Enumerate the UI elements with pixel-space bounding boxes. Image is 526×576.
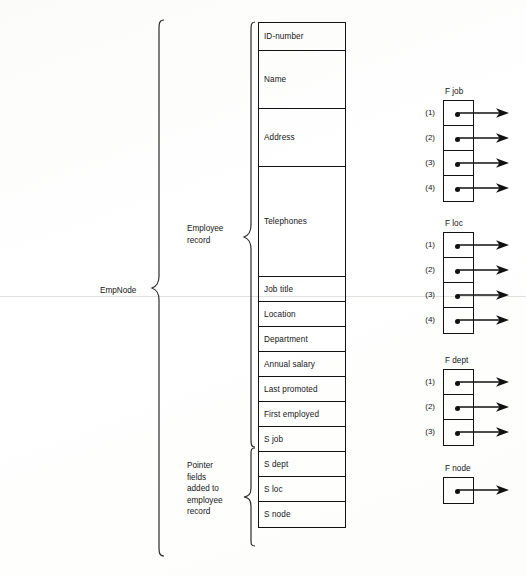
record-field-label: S job [264, 435, 283, 444]
pointer-table-row [444, 308, 473, 333]
pointer-table-row [444, 420, 473, 445]
pointer-fields-label: Pointer fields added to employee record [187, 460, 223, 518]
pointer-table-title: F job [445, 87, 463, 96]
pointer-dot-icon [455, 489, 460, 494]
pointer-table-row [444, 283, 473, 308]
pointer-row-index: (4) [415, 315, 435, 324]
record-field-label: ID-number [264, 32, 304, 41]
record-field-label: S dept [264, 460, 288, 469]
pointer-table-row [444, 151, 473, 176]
record-field-label: Telephones [264, 217, 307, 226]
pointer-dot-icon [455, 294, 460, 299]
pointer-table-row [444, 370, 473, 395]
record-field-label: Department [264, 335, 308, 344]
record-field-row: Telephones [259, 167, 345, 277]
record-field-row: Annual salary [259, 352, 345, 377]
figure-canvas: EmpNode Employee record Pointer fields a… [0, 0, 526, 576]
pointer-table-title: F loc [445, 219, 463, 228]
pointer-row-index: (1) [415, 240, 435, 249]
record-field-label: Location [264, 310, 296, 319]
pointer-dot-icon [455, 269, 460, 274]
record-field-row: ID-number [259, 23, 345, 51]
employee-record-table: ID-numberNameAddressTelephonesJob titleL… [258, 22, 346, 528]
pointer-dot-icon [455, 319, 460, 324]
pointer-row-index: (3) [415, 158, 435, 167]
pointer-table-title: F dept [445, 356, 468, 365]
pointer-table-row [444, 126, 473, 151]
pointer-row-index: (2) [415, 265, 435, 274]
record-field-row: S node [259, 502, 345, 527]
record-field-label: Annual salary [264, 360, 315, 369]
pointer-dot-icon [455, 162, 460, 167]
record-field-row: S dept [259, 452, 345, 477]
record-field-row: Job title [259, 277, 345, 302]
pointer-table-row [444, 395, 473, 420]
pointer-table-row [444, 176, 473, 201]
pointer-row-index: (1) [415, 377, 435, 386]
pointer-table-row [444, 101, 473, 126]
employee-record-label: Employee record [187, 223, 223, 246]
pointer-row-index: (2) [415, 133, 435, 142]
pointer-table-row [444, 258, 473, 283]
record-field-label: Name [264, 75, 286, 84]
record-field-row: S loc [259, 477, 345, 502]
pointer-dot-icon [455, 406, 460, 411]
record-field-row: First employed [259, 402, 345, 427]
record-field-label: First employed [264, 410, 319, 419]
record-field-label: Last promoted [264, 385, 318, 394]
record-field-label: S loc [264, 485, 283, 494]
pointer-table [443, 477, 474, 504]
pointer-dot-icon [455, 112, 460, 117]
empnode-label: EmpNode [100, 285, 136, 297]
pointer-row-index: (1) [415, 108, 435, 117]
empnode-brace [150, 18, 170, 558]
record-field-row: Department [259, 327, 345, 352]
record-field-row: Name [259, 51, 345, 109]
record-field-row: S job [259, 427, 345, 452]
pointer-dot-icon [455, 137, 460, 142]
record-field-row: Last promoted [259, 377, 345, 402]
pointer-dot-icon [455, 431, 460, 436]
pointer-table-row [444, 478, 473, 503]
pointer-table-row [444, 233, 473, 258]
pointer-fields-brace [240, 446, 258, 548]
pointer-table [443, 100, 474, 202]
pointer-row-index: (2) [415, 402, 435, 411]
pointer-row-index: (3) [415, 290, 435, 299]
record-field-label: Address [264, 133, 295, 142]
record-field-row: Location [259, 302, 345, 327]
pointer-table [443, 369, 474, 446]
record-field-row: Address [259, 109, 345, 167]
pointer-row-index: (4) [415, 183, 435, 192]
employee-record-brace [240, 20, 258, 450]
pointer-table-title: F node [445, 464, 471, 473]
pointer-dot-icon [455, 244, 460, 249]
pointer-dot-icon [455, 381, 460, 386]
pointer-row-index: (3) [415, 427, 435, 436]
record-field-label: Job title [264, 285, 293, 294]
pointer-dot-icon [455, 187, 460, 192]
pointer-table [443, 232, 474, 334]
record-field-label: S node [264, 510, 291, 519]
